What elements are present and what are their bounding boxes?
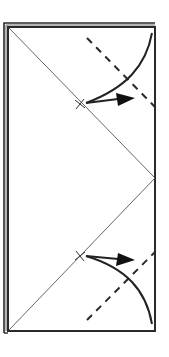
origami-fold-diagram: [0, 0, 169, 357]
